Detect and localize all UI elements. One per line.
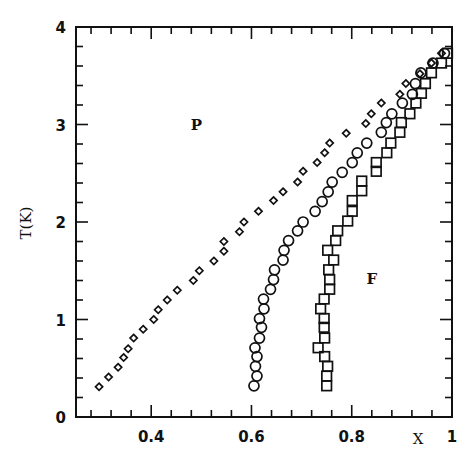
region-label-p: P [191,116,202,134]
diamond-point [255,208,262,215]
circle-point [397,98,407,108]
plot-frame [76,27,452,417]
circle-point [362,138,372,148]
y-tick-label: 3 [56,117,66,135]
square-point [347,206,357,216]
diamond-point [270,197,277,204]
square-point [331,236,341,246]
circle-point [254,333,264,343]
circle-point [352,148,362,158]
phase-diagram-chart: 0.40.60.8101234 T(K) X P F [0,0,476,457]
y-tick-label: 2 [56,214,66,232]
diamond-point [115,364,122,371]
diamond-point [236,228,243,235]
square-point [382,148,392,158]
diamond-point [220,238,227,245]
diamond-point [95,383,102,390]
square-point [319,294,329,304]
square-point [427,68,437,78]
x-tick-label: 1 [447,428,457,446]
diamond-point [240,218,247,225]
diamond-point [174,287,181,294]
circle-point [252,371,262,381]
circle-point [250,361,260,371]
square-point [323,245,333,255]
square-point [322,381,332,391]
diamond-point [321,149,328,156]
diamond-point [120,354,127,361]
diamond-point [130,334,137,341]
circle-point [337,167,347,177]
square-point [333,226,343,236]
data-marks [95,48,452,390]
square-point [357,186,367,196]
circle-point [266,284,276,294]
square-point [395,128,405,138]
circle-point [327,177,337,187]
square-point [316,304,326,314]
diamond-point [314,159,321,166]
diamond-point [190,277,197,284]
square-point [343,216,353,226]
circle-point [249,381,259,391]
square-point [386,138,396,148]
square-point [421,79,431,89]
x-tick-label: 0.6 [238,428,265,446]
circle-point [278,255,288,265]
y-axis-title: T(K) [17,207,35,240]
diamond-point [294,178,301,185]
circle-point [269,275,279,285]
diamond-point [378,99,385,106]
y-tick-label: 4 [56,19,66,37]
square-point [320,333,330,343]
square-point [329,255,339,265]
square-point [324,265,334,275]
diamond-point [105,373,112,380]
circle-point [410,79,420,89]
diamond-point [402,80,409,87]
diamond-point [125,345,132,352]
y-tick-label: 0 [56,409,66,427]
circle-point [376,127,386,137]
y-tick-label: 1 [56,312,66,330]
circle-point [298,217,308,227]
circle-point [279,245,289,255]
circle-point [284,236,294,246]
diamond-point [368,110,375,117]
diamond-point [220,248,227,255]
diamond-point [210,257,217,264]
x-tick-label: 0.8 [338,428,365,446]
diamond-point [396,91,403,98]
circle-point [347,158,357,168]
diamond-point [196,267,203,274]
circle-point [259,304,269,314]
diamond-point [362,120,369,127]
series-circles [249,48,450,390]
x-tick-label: 0.4 [138,428,165,446]
diamond-point [164,296,171,303]
circle-point [387,109,397,119]
axis-ticks [76,27,452,417]
circle-point [317,197,327,207]
diamond-point [326,139,333,146]
circle-point [323,187,333,197]
square-point [322,371,332,381]
series-diamonds [95,50,445,391]
diamond-point [150,316,157,323]
circle-point [270,265,280,275]
square-point [347,196,357,206]
diamond-point [279,188,286,195]
square-point [325,275,335,285]
diamond-point [155,306,162,313]
circle-point [310,206,320,216]
square-point [357,176,367,186]
region-label-f: F [366,270,377,288]
square-point [325,284,335,294]
circle-point [258,294,268,304]
square-point [323,362,333,372]
x-axis-title: X [413,430,424,448]
diamond-point [300,168,307,175]
diamond-point [343,130,350,137]
diamond-point [140,326,147,333]
